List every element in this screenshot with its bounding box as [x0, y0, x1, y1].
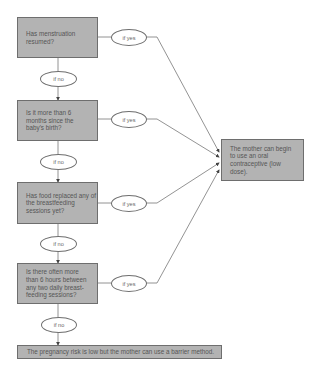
question-text: Is it more than 6 months since the baby'… [26, 109, 88, 132]
no-label-4: if no [41, 317, 77, 333]
no-label-2: if no [40, 154, 77, 170]
question-box-six-hours: Is there often more than 6 hours between… [17, 263, 98, 304]
yes-label-1: if yes [111, 29, 147, 46]
yes-label-4: if yes [111, 275, 147, 292]
outcome-oral-contraceptive: The mother can begin to use an oral cont… [221, 139, 304, 181]
question-text: Has food replaced any of the breastfeedi… [26, 192, 96, 215]
question-box-menstruation: Has menstruation resumed? [17, 17, 98, 58]
question-box-food: Has food replaced any of the breastfeedi… [17, 182, 98, 224]
question-text: Has menstruation resumed? [26, 30, 86, 45]
outcome-barrier-method: The pregnancy risk is low but the mother… [17, 345, 222, 359]
question-text: Is there often more than 6 hours between… [26, 268, 92, 298]
yes-label-3: if yes [111, 195, 147, 212]
outcome-text: The pregnancy risk is low but the mother… [27, 348, 214, 356]
question-box-six-months: Is it more than 6 months since the baby'… [17, 100, 98, 141]
outcome-text: The mother can begin to use an oral cont… [230, 145, 292, 175]
no-label-3: if no [40, 236, 77, 252]
no-label-1: if no [40, 71, 77, 87]
yes-label-2: if yes [111, 111, 147, 128]
